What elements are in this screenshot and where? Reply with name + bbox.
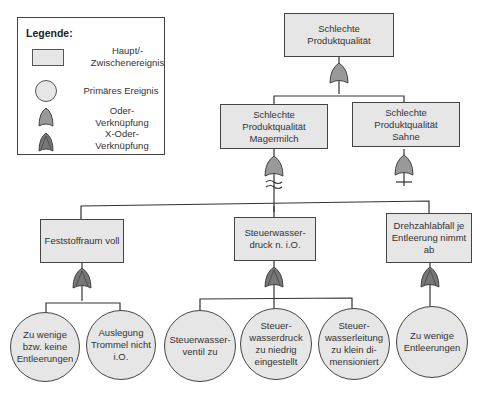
legend-label-event: Haupt/- Zwischenereignis [90,45,165,69]
legend-title: Legende: [26,27,73,39]
legend-label-xor: X-Oder- Verknüpfung [82,128,162,152]
event-steuerwasserdruck: Steuerwasser- druck n. i.O. [234,217,316,261]
event-magermilch: Schlechte Produktqualität Magermilch [220,104,328,149]
primary-event: Steuer- wasserleitung zu klein di- mensi… [318,308,390,380]
legend: Legende: Haupt/- Zwischenereignis Primär… [17,17,165,155]
primary-event: Auslegung Trommel nicht i.O. [86,310,156,380]
primary-event: Steuerwasser- ventil zu [164,310,236,382]
legend-or-gate-icon [38,107,54,127]
or-gate-icon [394,154,414,176]
primary-event: Zu wenige bzw. keine Entleerungen [10,312,80,382]
primary-event: Steuer- wasserdruck zu niedrig eingestel… [240,308,312,380]
xor-gate-icon [264,266,284,288]
or-gate-icon [264,155,284,177]
primary-event: Zu wenige Entleerungen [396,306,468,378]
legend-xor-gate-icon [38,132,54,152]
or-gate-icon [329,62,349,84]
legend-label-or: Oder- Verknüpfung [82,105,162,129]
event-top: Schlechte Produktqualität [284,13,394,57]
event-feststoffraum: Feststoffraum voll [40,219,124,263]
xor-gate-icon [420,266,440,288]
legend-label-primary: Primäres Ereignis [76,85,166,97]
legend-rectangle-icon [32,49,64,66]
event-sahne: Schlechte Produktqualität Sahne [352,102,460,147]
event-drehzahlabfall: Drehzahlabfall je Entleerung nimmt ab [386,213,472,263]
xor-gate-icon [72,267,92,289]
legend-circle-icon [35,80,57,102]
